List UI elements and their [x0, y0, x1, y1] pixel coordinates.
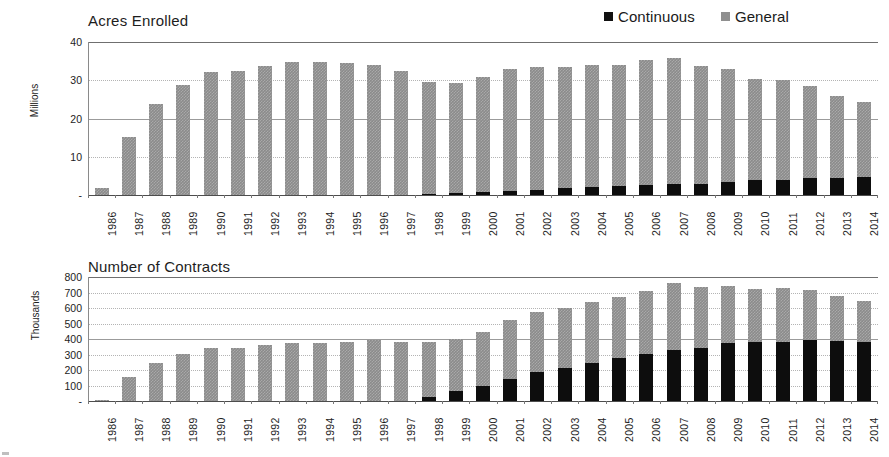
x-axis-tick [877, 401, 878, 404]
x-axis-tick [606, 195, 607, 198]
bar-segment-continuous [776, 180, 790, 195]
bar-2004 [585, 277, 599, 401]
bar-segment-general [694, 287, 708, 347]
bar-2007 [667, 277, 681, 401]
x-axis-label-1993: 1993 [296, 417, 308, 442]
bar-segment-continuous [803, 340, 817, 401]
bar-1986 [95, 277, 109, 401]
bar-segment-general [476, 77, 490, 193]
legend-swatch-general-icon [721, 12, 730, 21]
x-axis-tick [524, 401, 525, 404]
bar-segment-general [612, 297, 626, 358]
x-axis-tick [796, 401, 797, 404]
x-axis-line [88, 401, 878, 402]
bar-2003 [558, 277, 572, 401]
bar-segment-general [503, 69, 517, 191]
bar-2004 [585, 42, 599, 195]
x-axis-tick [415, 195, 416, 198]
x-axis-label-2007: 2007 [678, 417, 690, 442]
x-axis-tick [333, 195, 334, 198]
bar-segment-general [585, 302, 599, 363]
bar-segment-general [503, 320, 517, 380]
bar-segment-general [721, 69, 735, 181]
x-axis-label-2006: 2006 [650, 417, 662, 442]
bar-2005 [612, 42, 626, 195]
page-title-number-of-contracts: Number of Contracts [88, 258, 230, 275]
bar-segment-general [585, 65, 599, 187]
x-axis-tick [633, 401, 634, 404]
bar-segment-continuous [558, 368, 572, 401]
x-axis-label-2011: 2011 [787, 418, 799, 442]
x-axis-tick [715, 195, 716, 198]
bar-2009 [721, 277, 735, 401]
x-axis-tick [660, 195, 661, 198]
bar-2000 [476, 42, 490, 195]
bar-segment-general [830, 96, 844, 177]
y-axis-tick-label: 700 [30, 287, 82, 299]
x-axis-label-2000: 2000 [487, 211, 499, 236]
bar-segment-continuous [694, 184, 708, 195]
x-axis-label-2004: 2004 [596, 417, 608, 442]
bar-segment-continuous [612, 186, 626, 195]
x-axis-tick [115, 195, 116, 198]
x-axis-tick [442, 195, 443, 198]
bar-2010 [748, 42, 762, 195]
bar-1997 [394, 42, 408, 195]
x-axis-label-1999: 1999 [460, 211, 472, 236]
x-axis-tick [115, 401, 116, 404]
x-axis-tick [224, 401, 225, 404]
bar-segment-general [449, 339, 463, 391]
bar-1996 [367, 277, 381, 401]
bar-2008 [694, 277, 708, 401]
bar-segment-general [667, 283, 681, 350]
x-axis-tick [279, 401, 280, 404]
x-axis-tick [497, 401, 498, 404]
x-axis-label-1995: 1995 [351, 417, 363, 442]
bar-1990 [204, 42, 218, 195]
x-axis-label-2007: 2007 [678, 211, 690, 236]
bar-segment-continuous [667, 350, 681, 401]
bar-segment-general [748, 289, 762, 342]
bar-2006 [639, 42, 653, 195]
bar-segment-continuous [503, 191, 517, 195]
bar-segment-general [530, 312, 544, 372]
x-axis-label-1993: 1993 [296, 211, 308, 236]
bar-segment-general [776, 80, 790, 180]
bar-segment-continuous [422, 397, 436, 401]
bar-2001 [503, 277, 517, 401]
bar-segment-continuous [721, 343, 735, 401]
y-axis-tick-label: 200 [30, 364, 82, 376]
bar-1991 [231, 277, 245, 401]
bar-segment-general [639, 291, 653, 355]
bar-segment-continuous [530, 372, 544, 401]
bar-segment-general [694, 66, 708, 184]
bar-2002 [530, 42, 544, 195]
x-axis-tick [551, 401, 552, 404]
bar-segment-continuous [530, 190, 544, 195]
x-axis-tick [687, 401, 688, 404]
bar-segment-general [122, 377, 136, 401]
x-axis-label-1989: 1989 [187, 211, 199, 236]
x-axis-tick [360, 401, 361, 404]
bar-segment-general [95, 188, 109, 195]
x-axis-tick [251, 401, 252, 404]
bar-2011 [776, 42, 790, 195]
bar-segment-general [95, 400, 109, 401]
bar-2007 [667, 42, 681, 195]
x-axis-label-2005: 2005 [623, 211, 635, 236]
y-axis-tick-label: - [30, 189, 82, 201]
y-axis-line [88, 277, 89, 401]
bar-1988 [149, 277, 163, 401]
x-axis-tick [88, 401, 89, 404]
x-axis-tick [360, 195, 361, 198]
x-axis-tick [170, 195, 171, 198]
bar-segment-continuous [449, 391, 463, 401]
bar-2002 [530, 277, 544, 401]
bar-1994 [313, 42, 327, 195]
x-axis-label-1989: 1989 [187, 417, 199, 442]
x-axis-label-1987: 1987 [133, 417, 145, 442]
scan-artifact [2, 452, 9, 455]
y-axis-tick-label: 20 [30, 113, 82, 125]
x-axis-label-2012: 2012 [814, 211, 826, 236]
x-axis-tick [851, 195, 852, 198]
